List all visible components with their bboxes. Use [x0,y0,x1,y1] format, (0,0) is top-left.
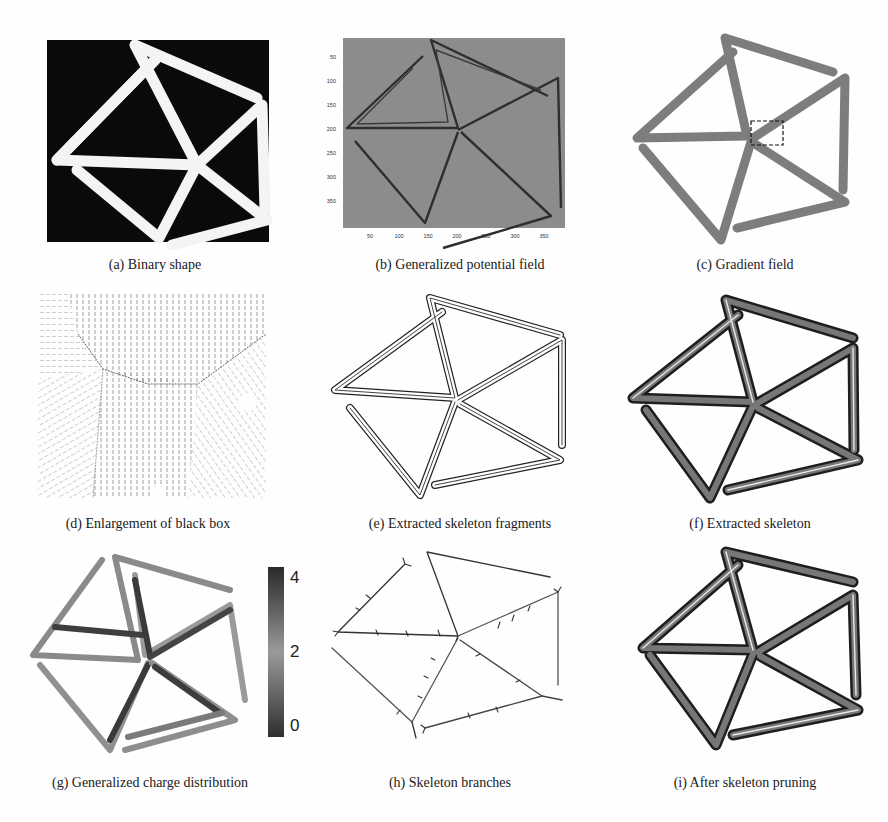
panel-g [30,555,250,755]
pruned-skeleton-image [628,550,868,760]
colorbar-ticks: 4 2 0 [288,565,328,745]
colorbar [268,567,284,737]
caption-b: (b) Generalized potential field [355,257,565,273]
caption-a: (a) Binary shape [60,257,250,273]
svg-text:50: 50 [330,54,336,60]
svg-text:0: 0 [290,716,299,735]
extracted-skeleton-image [628,290,868,500]
skeleton-branches-image [330,550,570,750]
svg-text:300: 300 [327,174,336,180]
vector-field-enlargement [38,294,266,498]
caption-f: (f) Extracted skeleton [650,516,850,532]
panel-e [330,290,570,500]
skeleton-fragments-image [330,290,570,500]
binary-shape-image [47,40,269,242]
caption-i: (i) After skeleton pruning [640,775,850,791]
svg-text:250: 250 [481,233,490,239]
panel-h [330,550,570,750]
potential-field-axes: 50 100 150 200 250 300 350 50 100 150 20… [343,38,565,238]
charge-distribution-image [30,555,250,755]
caption-c: (c) Gradient field [660,257,830,273]
svg-text:100: 100 [394,233,403,239]
svg-text:100: 100 [327,78,336,84]
panel-d [38,294,266,498]
svg-text:4: 4 [290,568,299,587]
caption-g: (g) Generalized charge distribution [20,775,280,791]
svg-text:50: 50 [367,233,373,239]
panel-i [628,550,868,760]
panel-a [47,40,269,242]
svg-text:150: 150 [423,233,432,239]
svg-text:150: 150 [327,102,336,108]
caption-h: (h) Skeleton branches [360,775,540,791]
svg-text:350: 350 [539,233,548,239]
caption-d: (d) Enlargement of black box [28,516,268,532]
svg-text:350: 350 [327,198,336,204]
gradient-field-image [625,30,865,245]
svg-text:200: 200 [452,233,461,239]
caption-e: (e) Extracted skeleton fragments [340,516,580,532]
svg-text:2: 2 [290,642,299,661]
panel-f [628,290,868,500]
svg-text:300: 300 [510,233,519,239]
panel-b: 50 100 150 200 250 300 350 50 100 150 20… [343,38,565,228]
svg-text:250: 250 [327,150,336,156]
panel-c [625,30,865,245]
svg-text:200: 200 [327,126,336,132]
